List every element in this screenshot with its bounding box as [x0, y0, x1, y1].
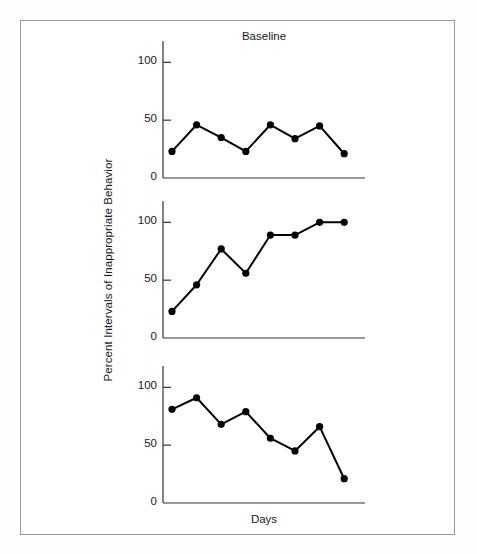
- data-point-marker: [341, 219, 348, 226]
- data-point-marker: [291, 231, 298, 238]
- y-tick-label: 50: [131, 272, 157, 284]
- y-tick-label: 50: [131, 437, 157, 449]
- data-point-marker: [316, 423, 323, 430]
- data-point-marker: [242, 148, 249, 155]
- data-point-marker: [242, 270, 249, 277]
- data-point-marker: [218, 421, 225, 428]
- plot-area-panel-1: 050100: [130, 30, 380, 190]
- chart-panel-3: 050100: [130, 355, 380, 515]
- plot-area-panel-3: 050100: [130, 355, 380, 515]
- data-series-line: [172, 222, 344, 311]
- data-point-marker: [193, 394, 200, 401]
- data-point-marker: [291, 135, 298, 142]
- y-tick-label: 100: [131, 379, 157, 391]
- y-tick-label: 0: [131, 330, 157, 342]
- y-tick-label: 0: [131, 170, 157, 182]
- data-point-marker: [218, 245, 225, 252]
- y-tick-label: 100: [131, 214, 157, 226]
- axes-panel-1: [130, 30, 380, 190]
- data-series-line: [172, 398, 344, 479]
- data-point-marker: [218, 134, 225, 141]
- y-axis-label-text: Percent Intervals of Inappropriate Behav…: [102, 159, 114, 382]
- data-point-marker: [267, 121, 274, 128]
- axes-panel-3: [130, 355, 380, 515]
- data-point-marker: [291, 447, 298, 454]
- data-point-marker: [168, 148, 175, 155]
- chart-panel-2: 050100: [130, 190, 380, 350]
- data-point-marker: [341, 475, 348, 482]
- data-point-marker: [316, 219, 323, 226]
- data-point-marker: [193, 281, 200, 288]
- data-point-marker: [267, 435, 274, 442]
- y-axis-label: Percent Intervals of Inappropriate Behav…: [96, 125, 120, 415]
- plot-area-panel-2: 050100: [130, 190, 380, 350]
- data-point-marker: [316, 122, 323, 129]
- data-point-marker: [242, 408, 249, 415]
- data-point-marker: [168, 406, 175, 413]
- data-point-marker: [193, 121, 200, 128]
- data-point-marker: [267, 231, 274, 238]
- data-point-marker: [168, 308, 175, 315]
- chart-panel-baseline: Baseline 050100: [130, 30, 380, 190]
- y-tick-label: 50: [131, 112, 157, 124]
- figure-root: Percent Intervals of Inappropriate Behav…: [0, 0, 477, 554]
- y-tick-label: 0: [131, 495, 157, 507]
- data-point-marker: [341, 150, 348, 157]
- axes-panel-2: [130, 190, 380, 350]
- y-tick-label: 100: [131, 54, 157, 66]
